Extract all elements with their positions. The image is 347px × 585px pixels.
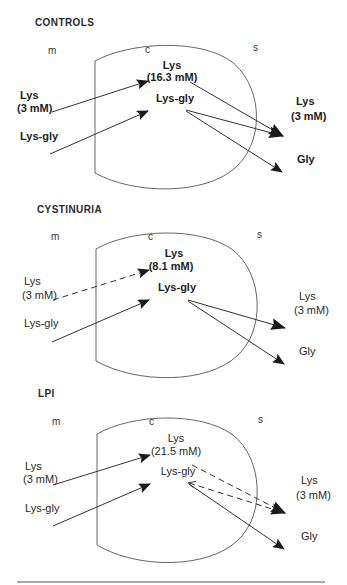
mucosal-lys-label: Lys (24, 276, 41, 287)
mucosal-dipeptide-label: Lys-gly (25, 503, 59, 514)
serosal-gly-label: Gly (297, 154, 315, 165)
dipeptide-lys-efflux-arrow-dashed (189, 483, 285, 513)
mucosal-dipeptide-label: Lys-gly (24, 318, 58, 329)
gly-efflux-arrow (186, 111, 282, 172)
serosal-lys-label: Lys (301, 475, 318, 486)
gly-efflux-arrow (188, 301, 284, 364)
lys-influx-arrow (53, 455, 150, 485)
mucosal-lys-concentration: (3 mM) (22, 290, 57, 301)
dipeptide-influx-arrow (50, 111, 148, 154)
cell-dipeptide-label: Lys-gly (158, 282, 196, 293)
mucosal-lys-concentration: (3 mM) (23, 474, 58, 485)
cell-lys-concentration: (21.5 mM) (151, 446, 201, 457)
panel-title: LPI (38, 389, 55, 399)
panel-title: CYSTINURIA (37, 205, 102, 215)
compartment-serosal-label: s (257, 230, 262, 240)
transport-diagram-figure: CONTROLS m c s Lys (3 mM) Lys-gly Lys (1… (0, 0, 347, 585)
compartment-serosal-label: s (253, 43, 258, 53)
compartment-mucosal-label: m (48, 46, 56, 56)
cell-lys-label: Lys (168, 433, 185, 444)
serosal-lys-concentration: (3 mM) (294, 305, 329, 316)
dipeptide-lys-efflux-arrow (186, 110, 283, 136)
compartment-mucosal-label: m (51, 232, 59, 242)
cell-lys-label: Lys (165, 248, 184, 259)
cell-dipeptide-label: Lys-gly (161, 466, 195, 477)
compartment-mucosal-label: m (52, 417, 60, 427)
lys-efflux-arrow (190, 82, 283, 136)
compartment-cell-label: c (149, 417, 154, 427)
compartment-cell-label: c (145, 45, 150, 55)
lys-influx-arrow-dashed (53, 270, 149, 300)
panel-title: CONTROLS (35, 18, 94, 28)
gly-efflux-arrow (189, 484, 284, 549)
serosal-lys-label: Lys (299, 291, 316, 302)
serosal-gly-label: Gly (299, 346, 316, 357)
cell-dipeptide-label: Lys-gly (156, 93, 194, 104)
serosal-gly-label: Gly (301, 531, 318, 542)
compartment-cell-label: c (148, 232, 153, 242)
dipeptide-influx-arrow (53, 484, 150, 526)
cell-lys-label: Lys (163, 60, 182, 71)
lys-influx-arrow (52, 81, 148, 112)
serosal-lys-concentration: (3 mM) (296, 490, 331, 501)
mucosal-lys-label: Lys (25, 461, 42, 472)
dipeptide-influx-arrow (52, 300, 149, 342)
dipeptide-lys-efflux-arrow (188, 300, 285, 328)
serosal-lys-label: Lys (296, 96, 315, 107)
mucosal-lys-label: Lys (20, 90, 39, 101)
serosal-lys-concentration: (3 mM) (291, 111, 326, 122)
cell-lys-concentration: (8.1 mM) (149, 261, 194, 272)
mucosal-lys-concentration: (3 mM) (17, 103, 52, 114)
mucosal-dipeptide-label: Lys-gly (20, 131, 58, 142)
lys-efflux-arrow-dashed (192, 465, 285, 513)
cell-lys-concentration: (16.3 mM) (147, 72, 198, 83)
compartment-serosal-label: s (258, 415, 263, 425)
